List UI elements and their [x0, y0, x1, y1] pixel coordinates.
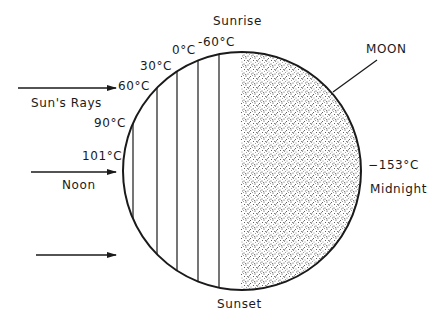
- suns-rays-label: Sun's Rays: [31, 97, 102, 110]
- temp-label-90: 90°C: [94, 117, 126, 130]
- temp-label-30: 30°C: [140, 60, 172, 73]
- temp-label-0: 0°C: [172, 44, 196, 57]
- midnight-label: Midnight: [370, 183, 427, 196]
- moon-label: MOON: [366, 43, 407, 56]
- temp-label-minus-60: -60°C: [198, 36, 235, 49]
- sunset-label: Sunset: [217, 298, 262, 311]
- temp-label-101: 101°C: [82, 150, 122, 163]
- moon-leader-line: [333, 60, 377, 92]
- noon-label: Noon: [62, 179, 96, 192]
- temp-label-60: 60°C: [118, 80, 150, 93]
- temp-label-minus-153: −153°C: [368, 159, 419, 172]
- sunrise-label: Sunrise: [213, 15, 262, 28]
